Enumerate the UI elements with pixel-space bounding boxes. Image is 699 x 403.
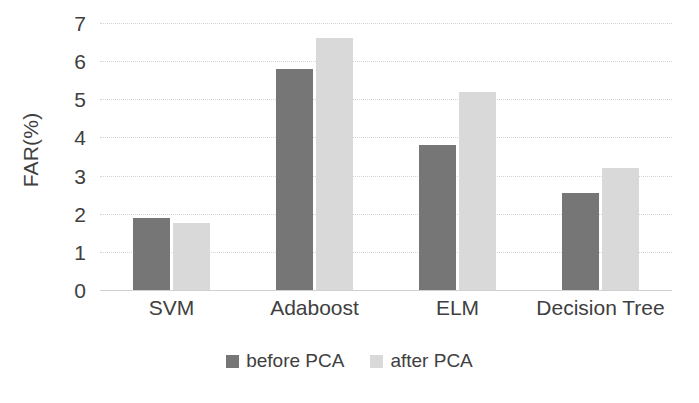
bar: [602, 168, 639, 290]
bar-chart: FAR(%) 01234567 SVMAdaboostELMDecision T…: [0, 0, 699, 403]
y-axis-tick-label: 6: [74, 51, 86, 72]
x-axis-category-labels: SVMAdaboostELMDecision Tree: [100, 296, 672, 336]
gridline: [100, 176, 672, 177]
x-axis-line: [100, 290, 672, 291]
bar: [459, 92, 496, 290]
legend-swatch-icon: [226, 355, 239, 368]
legend-item[interactable]: before PCA: [226, 350, 344, 372]
legend-label: after PCA: [390, 350, 472, 372]
y-axis-tick-label: 7: [74, 13, 86, 34]
y-axis-tick-label: 4: [74, 127, 86, 148]
legend-swatch-icon: [370, 355, 383, 368]
x-axis-category-label: SVM: [149, 296, 195, 320]
legend-label: before PCA: [246, 350, 344, 372]
bar: [419, 145, 456, 290]
y-axis-title: FAR(%): [8, 0, 54, 300]
y-axis-tick-label: 3: [74, 165, 86, 186]
y-axis-tick-labels: 01234567: [52, 0, 94, 302]
bar: [276, 69, 313, 290]
x-axis-category-label: ELM: [436, 296, 479, 320]
gridline: [100, 61, 672, 62]
y-axis-title-text: FAR(%): [19, 113, 43, 188]
legend-item[interactable]: after PCA: [370, 350, 472, 372]
bar: [316, 38, 353, 290]
bar: [562, 193, 599, 290]
y-axis-tick-label: 5: [74, 89, 86, 110]
gridline: [100, 137, 672, 138]
plot-area: [100, 23, 672, 290]
y-axis-tick-label: 2: [74, 203, 86, 224]
x-axis-category-label: Decision Tree: [536, 296, 664, 320]
bar: [173, 223, 210, 290]
gridline: [100, 99, 672, 100]
gridline: [100, 23, 672, 24]
chart-legend: before PCAafter PCA: [0, 350, 699, 372]
y-axis-tick-label: 1: [74, 241, 86, 262]
x-axis-category-label: Adaboost: [270, 296, 359, 320]
bar: [133, 218, 170, 290]
y-axis-tick-label: 0: [74, 280, 86, 301]
